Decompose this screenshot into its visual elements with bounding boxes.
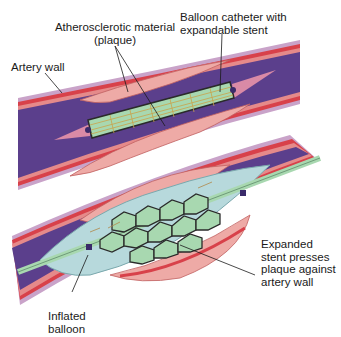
artery-wall-label: Artery wall — [11, 61, 65, 74]
expanded-stent-label: Expanded stent presses plaque against ar… — [261, 238, 336, 288]
plaque-label: Atherosclerotic material (plaque) — [50, 21, 180, 46]
inflated-balloon-label: Inflated balloon — [48, 310, 86, 335]
catheter-label: Balloon catheter with expandable stent — [180, 11, 287, 36]
